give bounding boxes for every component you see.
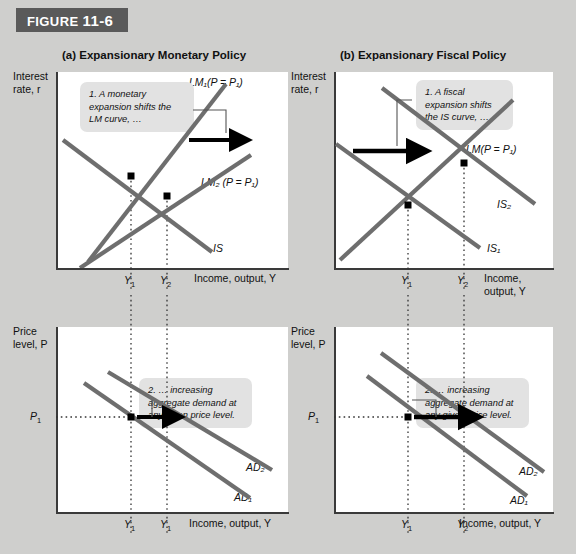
- panel-a-bottom-callout: 2. … increasing aggregate demand at any …: [139, 378, 252, 428]
- panel-b-bottom-tick-y2: Y2: [457, 518, 468, 533]
- panel-b-bottom-y-axis-label: Price level, P: [291, 325, 325, 351]
- panel-a-top-x-axis: [56, 268, 289, 270]
- panel-b-bottom-tick-y1: Y1: [401, 518, 412, 533]
- panel-b-bottom-tick-p1: P1: [308, 410, 319, 425]
- curve-label-lm2: LM₂ (P = P₁): [201, 176, 258, 188]
- panel-b-bottom-x-axis-label: Income, output, Y: [459, 517, 541, 530]
- curve-label-ad2-b: AD₂: [519, 465, 538, 477]
- panel-a-bottom-y-axis: [56, 327, 58, 513]
- panel-a-title: (a) Expansionary Monetary Policy: [62, 49, 246, 61]
- panel-a-top-tick-y2: Y2: [160, 274, 171, 289]
- curve-label-lm1: LM₁(P = P₁): [189, 76, 243, 88]
- panel-a-bottom-x-axis: [56, 512, 289, 514]
- panel-b-bottom-x-axis: [334, 512, 554, 514]
- figure-label: FIGURE: [27, 14, 79, 29]
- figure-root: FIGURE 11-6 (a) Expansionary Monetary Po…: [0, 0, 576, 554]
- panel-b-top-tick-y2: Y2: [457, 274, 468, 289]
- figure-header-text: FIGURE 11-6: [16, 12, 113, 29]
- panel-b-title: (b) Expansionary Fiscal Policy: [340, 49, 506, 61]
- curve-label-lm: LM(P = P₁): [466, 143, 516, 155]
- panel-a-top-y-axis: [56, 72, 58, 269]
- panel-a-top-x-axis-label: Income, output, Y: [194, 272, 276, 285]
- curve-label-ad2-a: AD₂: [246, 461, 265, 473]
- figure-header-bar: FIGURE 11-6: [16, 8, 128, 32]
- panel-a-bottom-tick-p1: P1: [30, 410, 41, 425]
- panel-a-bottom-tick-y2: Y1: [160, 518, 171, 533]
- panel-a-top-tick-y1: Y1: [124, 274, 135, 289]
- curve-label-is1: IS₁: [487, 242, 500, 254]
- curve-label-ad1-a: AD₁: [234, 491, 252, 503]
- panel-a-bottom-tick-y1: Y1: [124, 518, 135, 533]
- panel-a-top-y-axis-label: Interest rate, r: [13, 70, 48, 96]
- panel-a-top-callout: 1. A monetary expansion shifts the LM cu…: [80, 82, 194, 132]
- panel-a-bottom-y-axis-label: Price level, P: [13, 325, 47, 351]
- curve-label-ad1-b: AD₁: [510, 494, 528, 506]
- panel-b-top-y-axis-label: Interest rate, r: [291, 70, 326, 96]
- panel-b-top-tick-y1: Y1: [401, 274, 412, 289]
- panel-b-top-x-axis: [334, 268, 554, 270]
- panel-b-bottom-callout: 2. … increasing aggregate demand at any …: [416, 378, 529, 428]
- panel-a-bottom-x-axis-label: Income, output, Y: [189, 517, 271, 530]
- panel-b-top-x-axis-label: Income, output, Y: [484, 272, 526, 298]
- panel-b-top-y-axis: [334, 72, 336, 269]
- curve-label-is2: IS₂: [497, 198, 511, 210]
- figure-number: 11-6: [83, 12, 114, 29]
- curve-label-is: IS: [213, 242, 223, 254]
- panel-b-bottom-y-axis: [334, 327, 336, 513]
- panel-b-top-callout: 1. A fiscal expansion shifts the IS curv…: [416, 80, 513, 130]
